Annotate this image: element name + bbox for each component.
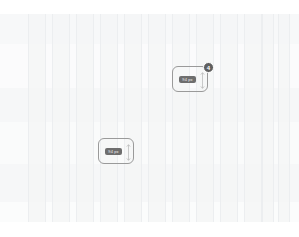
grid-column-fill <box>220 14 238 222</box>
element-selection-lower[interactable]: 94 px <box>98 138 134 164</box>
grid-column-line-right <box>93 14 94 222</box>
band-row <box>0 122 299 164</box>
grid-column-line-right <box>237 14 238 222</box>
grid-column-line-left <box>28 14 29 222</box>
grid-column-line-left <box>148 14 149 222</box>
grid-column-fill <box>278 14 290 222</box>
grid-column <box>76 14 94 222</box>
height-measure-arrow <box>125 144 132 161</box>
grid-column-line-left <box>244 14 245 222</box>
band-row <box>0 88 299 122</box>
grid-column-line-left <box>196 14 197 222</box>
grid-column-line-left <box>76 14 77 222</box>
grid-column-line-right <box>289 14 290 222</box>
grid-column-fill <box>148 14 166 222</box>
band-row <box>0 14 299 44</box>
selection-index-badge[interactable]: 4 <box>203 62 214 73</box>
grid-column-line-left <box>124 14 125 222</box>
grid-column-fill <box>76 14 94 222</box>
grid-column-line-right <box>117 14 118 222</box>
grid-column <box>124 14 142 222</box>
band-row <box>0 202 299 222</box>
grid-column-line-right <box>273 14 274 222</box>
design-canvas[interactable]: 94 px494 px <box>0 0 299 237</box>
grid-column-fill <box>52 14 70 222</box>
grid-column <box>244 14 262 222</box>
dimension-label: 94 px <box>105 148 122 155</box>
height-measure-arrow <box>199 72 206 89</box>
grid-column <box>52 14 70 222</box>
grid-column <box>262 14 274 222</box>
grid-column-line-right <box>261 14 262 222</box>
grid-column <box>28 14 46 222</box>
grid-column-line-left <box>220 14 221 222</box>
grid-column <box>196 14 214 222</box>
grid-column-line-right <box>213 14 214 222</box>
grid-column-line-left <box>278 14 279 222</box>
grid-column-line-left <box>172 14 173 222</box>
grid-column-line-right <box>69 14 70 222</box>
grid-column <box>100 14 118 222</box>
grid-column-fill <box>28 14 46 222</box>
grid-column-line-right <box>141 14 142 222</box>
grid-column-fill <box>196 14 214 222</box>
grid-column-fill <box>124 14 142 222</box>
grid-column-line-left <box>52 14 53 222</box>
dimension-label: 94 px <box>179 76 196 83</box>
grid-column <box>172 14 190 222</box>
band-row <box>0 44 299 88</box>
element-selection-upper[interactable]: 94 px4 <box>172 66 208 92</box>
band-row <box>0 164 299 202</box>
grid-column-line-left <box>100 14 101 222</box>
grid-column-line-right <box>165 14 166 222</box>
grid-column-line-left <box>262 14 263 222</box>
grid-column-fill <box>262 14 274 222</box>
grid-column-line-right <box>189 14 190 222</box>
grid-column-fill <box>172 14 190 222</box>
grid-column <box>148 14 166 222</box>
grid-column <box>220 14 238 222</box>
grid-column-line-right <box>45 14 46 222</box>
grid-column-fill <box>100 14 118 222</box>
grid-column-layer <box>0 0 299 237</box>
grid-column-fill <box>244 14 262 222</box>
grid-column <box>278 14 290 222</box>
